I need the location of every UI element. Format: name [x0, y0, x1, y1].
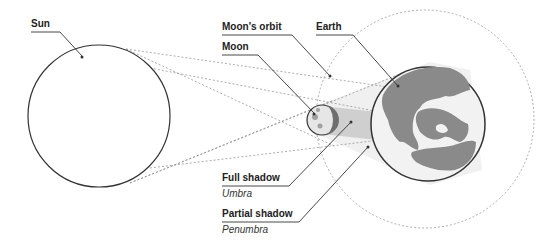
- partial-shadow-label: Partial shadow: [222, 208, 293, 220]
- moons-orbit-label: Moon's orbit: [222, 21, 282, 33]
- moon-leader: [222, 55, 314, 113]
- full-shadow-label: Full shadow: [222, 172, 280, 184]
- sun-label: Sun: [31, 18, 50, 30]
- earth-label: Earth: [316, 21, 342, 33]
- umbra-label: Umbra: [222, 188, 252, 200]
- moon-icon: [307, 105, 339, 135]
- earth-icon: [371, 67, 485, 181]
- sun-icon: [28, 45, 170, 187]
- penumbra-label: Penumbra: [222, 224, 268, 236]
- moon-label: Moon: [222, 41, 249, 53]
